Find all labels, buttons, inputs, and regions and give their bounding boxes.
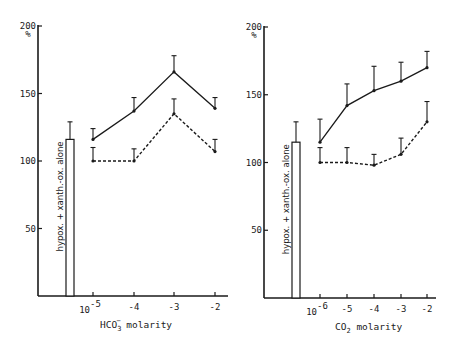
- control-bar: [292, 142, 300, 298]
- data-point: [345, 161, 348, 164]
- series-dashed-line: [93, 114, 215, 161]
- chart-panel-left: 50100150200%10-5-4-3-2HCO3− molarityhypo…: [20, 21, 228, 333]
- y-axis-unit: %: [251, 30, 257, 40]
- x-tick-label: -4: [369, 304, 380, 314]
- y-tick-label: 150: [246, 90, 262, 100]
- y-tick-label: 50: [25, 224, 36, 234]
- x-axis-label: HCO3− molarity: [100, 317, 172, 333]
- series-solid-line: [93, 72, 215, 139]
- data-point: [399, 153, 402, 156]
- data-point: [372, 89, 375, 92]
- control-bar-label: hypox. + xanth.-ox. alone: [55, 141, 65, 251]
- x-tick-label: 10: [79, 305, 90, 315]
- x-axis-label-rest: molarity: [121, 319, 173, 330]
- x-tick-exponent: -5: [90, 299, 101, 309]
- x-tick-label: -2: [210, 302, 221, 312]
- control-bar: [66, 139, 74, 296]
- data-point: [132, 159, 135, 162]
- x-tick-label: -3: [396, 304, 407, 314]
- x-tick-label: -4: [129, 302, 140, 312]
- x-axis-label: CO2 molarity: [335, 321, 402, 335]
- x-tick-label: -2: [422, 304, 433, 314]
- y-axis-unit: %: [25, 29, 31, 39]
- data-point: [213, 107, 216, 110]
- chart-panel-right: 50100150200%10-6-5-4-3-2CO2 molarityhypo…: [246, 22, 436, 335]
- figure: 50100150200%10-5-4-3-2HCO3− molarityhypo…: [0, 0, 458, 347]
- data-point: [91, 159, 94, 162]
- data-point: [318, 161, 321, 164]
- y-tick-label: 50: [251, 225, 262, 235]
- data-point: [399, 80, 402, 83]
- x-axis-label-main: CO: [335, 321, 347, 332]
- data-point: [425, 66, 428, 69]
- data-point: [91, 138, 94, 141]
- data-point: [425, 120, 428, 123]
- x-axis-label-main: HCO: [100, 319, 117, 330]
- x-tick-label: -3: [169, 302, 180, 312]
- data-point: [318, 141, 321, 144]
- data-point: [172, 70, 175, 73]
- y-tick-label: 150: [20, 89, 36, 99]
- y-tick-label: 100: [246, 158, 262, 168]
- data-point: [132, 109, 135, 112]
- x-tick-label: -5: [342, 304, 353, 314]
- x-tick-exponent: -6: [317, 301, 328, 311]
- x-axis-label-rest: molarity: [351, 321, 403, 332]
- data-point: [372, 164, 375, 167]
- data-point: [213, 150, 216, 153]
- x-tick-label: 10: [306, 307, 317, 317]
- data-point: [345, 104, 348, 107]
- y-tick-label: 100: [20, 156, 36, 166]
- control-bar-label: hypox. + xanth.-ox. alone: [281, 144, 291, 254]
- data-point: [172, 112, 175, 115]
